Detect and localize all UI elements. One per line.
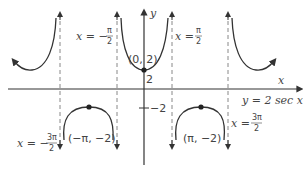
svg-text:3π: 3π <box>252 113 262 122</box>
svg-text:3π: 3π <box>47 133 57 142</box>
svg-text:2: 2 <box>107 37 112 46</box>
svg-text:2: 2 <box>49 144 54 153</box>
asymptote-label-neg-pi-2: x = − π 2 <box>76 26 113 46</box>
point-label-0-2: (0, 2) <box>128 53 158 66</box>
secant-graph: y x (0, 2) 2 −2 (−π, −2) (π, −2) y = 2 s… <box>0 0 303 177</box>
asymptote-label-pi-2: x = π 2 <box>175 26 202 46</box>
curve-right-up <box>232 18 274 70</box>
point-neg-pi <box>86 104 91 109</box>
svg-text:π: π <box>196 26 201 35</box>
point-pi <box>198 104 203 109</box>
asymptote-label-3pi-2: x = 3π 2 <box>231 113 262 133</box>
svg-text:π: π <box>107 26 112 35</box>
y-tick-label-2: 2 <box>146 73 153 86</box>
point-label-pi: (π, −2) <box>183 132 221 145</box>
svg-text:x =: x = <box>175 30 194 43</box>
asymptote-label-neg-3pi-2: x = − 3π 2 <box>17 133 57 153</box>
y-axis-label: y <box>149 7 157 20</box>
svg-text:x = −: x = − <box>17 137 49 150</box>
svg-text:2: 2 <box>196 37 201 46</box>
equation-label: y = 2 sec x <box>241 94 303 107</box>
curve-left-up <box>14 18 56 70</box>
point-label-neg-pi: (−π, −2) <box>68 132 116 145</box>
y-tick-label-neg2: −2 <box>150 102 166 115</box>
x-axis-label: x <box>278 74 285 87</box>
svg-text:x =: x = <box>231 117 250 130</box>
point-0-2 <box>141 67 146 72</box>
svg-text:x = −: x = − <box>76 30 108 43</box>
svg-text:2: 2 <box>254 124 259 133</box>
